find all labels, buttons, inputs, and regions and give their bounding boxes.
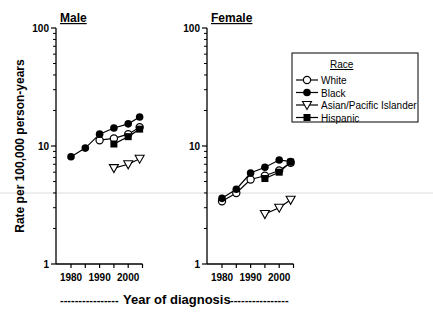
male-series — [67, 113, 144, 172]
female-title: Female — [211, 11, 253, 25]
filled-circle-marker — [275, 156, 283, 164]
y-tick-label: 10 — [38, 141, 50, 152]
y-tick-label: 1 — [43, 259, 49, 270]
open-triangle-down-marker — [135, 155, 144, 163]
open-triangle-down-marker — [275, 204, 284, 212]
x-tick-label: 1990 — [239, 272, 262, 283]
filled-square-marker — [304, 114, 311, 121]
filled-circle-marker — [303, 89, 311, 97]
open-triangle-down-marker — [109, 165, 118, 173]
filled-square-marker — [125, 133, 132, 140]
open-circle-marker — [303, 76, 310, 83]
y-axis-label: Rate per 100,000 person-years — [13, 59, 27, 233]
x-axis-label: Year of diagnosis — [123, 292, 231, 307]
filled-circle-marker — [247, 169, 255, 177]
x-tick-label: 1990 — [88, 272, 111, 283]
filled-circle-marker — [261, 163, 269, 171]
male-axes: 110100198019902000 — [32, 23, 142, 283]
legend-item-label: Hispanic — [321, 113, 359, 124]
y-tick-label: 100 — [32, 23, 49, 34]
filled-square-marker — [287, 159, 294, 166]
filled-square-marker — [261, 175, 268, 182]
female-panel: Female 110100198019902000 — [183, 11, 295, 283]
open-triangle-down-marker — [286, 196, 295, 204]
female-axes: 110100198019902000 — [183, 23, 293, 283]
filled-circle-marker — [124, 120, 132, 128]
x-tick-label: 1980 — [60, 272, 83, 283]
x-axis-dashes-left: ---------------- — [60, 294, 119, 306]
open-triangle-down-marker — [260, 211, 269, 219]
legend-title: Race — [330, 59, 354, 70]
filled-circle-marker — [82, 144, 90, 152]
chart-canvas: Rate per 100,000 person-years Male 11010… — [0, 0, 433, 312]
open-circle-marker — [247, 176, 254, 183]
filled-circle-marker — [110, 124, 118, 132]
y-tick-label: 100 — [183, 23, 200, 34]
filled-square-marker — [136, 126, 143, 133]
y-tick-label: 10 — [189, 141, 201, 152]
filled-circle-marker — [136, 113, 144, 121]
filled-square-marker — [110, 140, 117, 147]
y-tick-label: 1 — [194, 259, 200, 270]
filled-circle-marker — [218, 195, 226, 203]
legend-item-label: Black — [321, 88, 346, 99]
x-axis-dashes-right: ---------------- — [230, 294, 289, 306]
legend: Race WhiteBlackAsian/Pacific IslanderHis… — [292, 53, 418, 124]
filled-circle-marker — [96, 130, 104, 138]
legend-item-label: White — [321, 75, 347, 86]
legend-item-label: Asian/Pacific Islander — [321, 100, 417, 111]
female-series — [218, 156, 295, 218]
filled-square-marker — [276, 169, 283, 176]
filled-circle-marker — [233, 185, 241, 193]
filled-circle-marker — [67, 153, 75, 161]
x-tick-label: 2000 — [268, 272, 291, 283]
x-tick-label: 2000 — [117, 272, 140, 283]
male-panel: Male 110100198019902000 — [32, 11, 144, 283]
male-title: Male — [60, 11, 87, 25]
x-tick-label: 1980 — [211, 272, 234, 283]
